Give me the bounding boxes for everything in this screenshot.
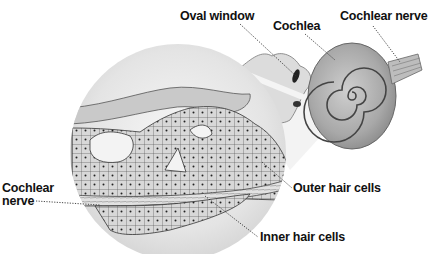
- label-cochlear-nerve-left-line1: Cochlear: [2, 182, 54, 195]
- label-cochlear-nerve-top: Cochlear nerve: [340, 10, 428, 23]
- cochlear-nerve-bundle: [388, 54, 422, 84]
- label-oval-window: Oval window: [180, 10, 254, 23]
- label-cochlear-nerve-left-line2: nerve: [2, 195, 34, 208]
- label-outer-hair-cells: Outer hair cells: [293, 182, 381, 195]
- label-inner-hair-cells: Inner hair cells: [260, 231, 345, 244]
- label-cochlea: Cochlea: [273, 20, 320, 33]
